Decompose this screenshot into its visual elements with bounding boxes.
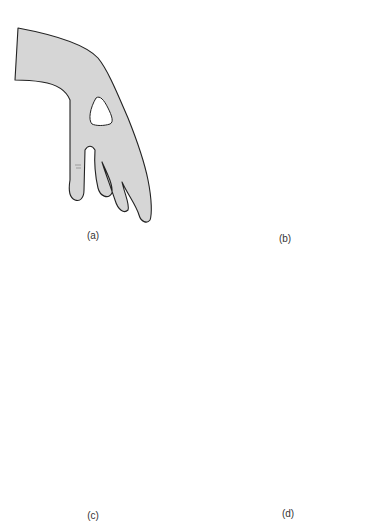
panel-b-label: (b) <box>265 233 305 244</box>
hand-illustrations <box>0 0 389 529</box>
panel-d-label: (d) <box>268 508 308 519</box>
panel-a-hand <box>15 28 151 222</box>
panel-c-label: (c) <box>73 510 113 521</box>
panel-a-label: (a) <box>73 230 113 241</box>
